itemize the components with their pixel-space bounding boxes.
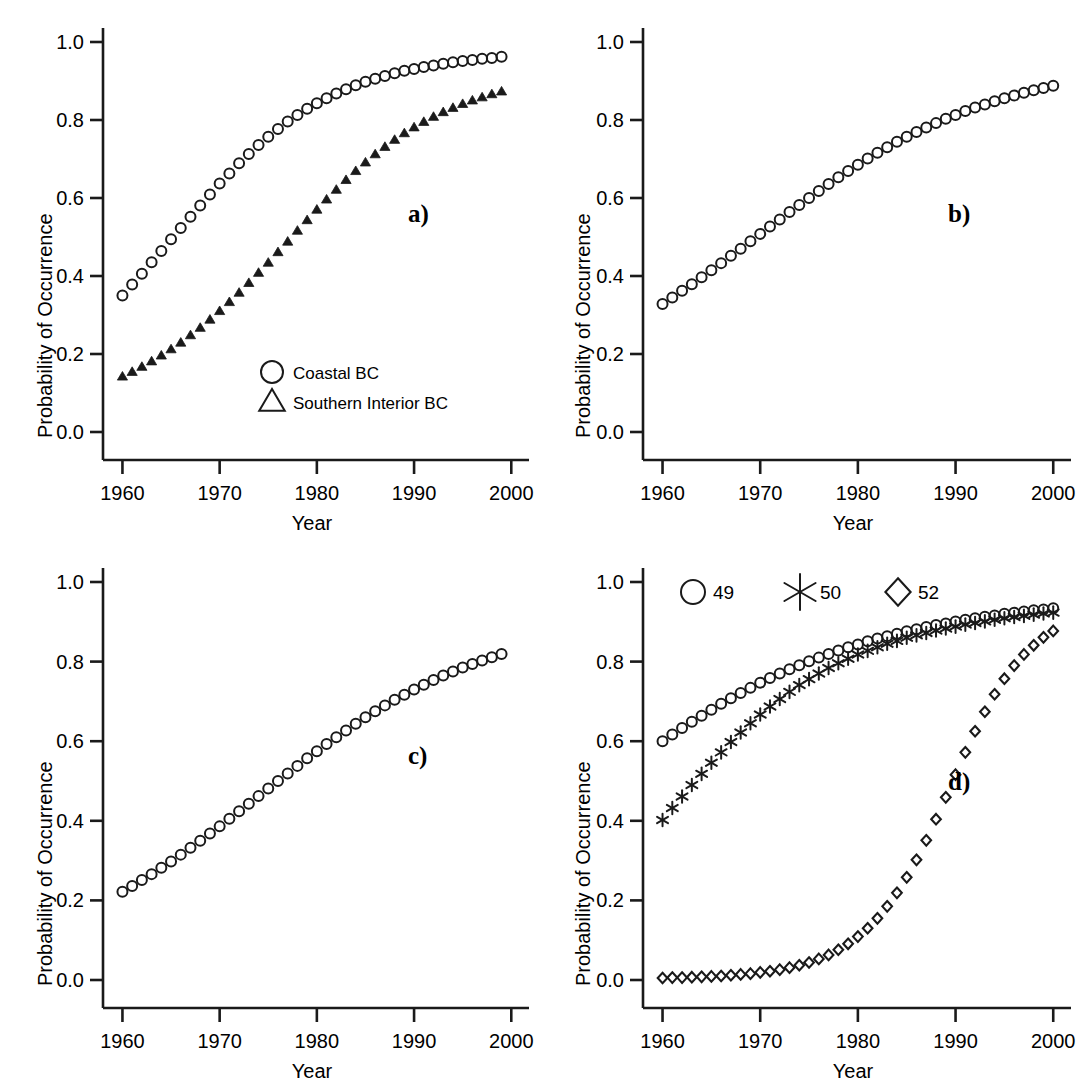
data-point-marker	[999, 93, 1009, 103]
data-point-marker	[707, 971, 717, 982]
data-point-marker	[658, 299, 668, 309]
x-tick-label: 1980	[295, 482, 340, 504]
data-point-marker	[283, 768, 293, 778]
data-point-marker	[746, 968, 756, 979]
data-point-marker	[409, 64, 419, 74]
data-point-marker	[814, 954, 824, 965]
data-point-marker	[360, 77, 370, 87]
data-point-marker	[687, 279, 697, 289]
data-point-marker	[458, 663, 468, 673]
data-point-marker	[399, 690, 409, 700]
y-axis-ticks: 0.00.20.40.60.81.0	[596, 31, 643, 443]
x-tick-label: 1970	[738, 1030, 783, 1052]
data-point-marker	[224, 297, 234, 306]
data-point-marker	[970, 726, 980, 737]
y-axis-ticks: 0.00.20.40.60.81.0	[596, 571, 643, 991]
x-tick-label: 1980	[295, 1030, 340, 1052]
data-point-marker	[1000, 673, 1010, 684]
legend-circle-open-icon	[681, 580, 705, 604]
x-tick-label: 1980	[836, 1030, 881, 1052]
y-tick-label: 0.6	[596, 187, 624, 209]
data-point-marker	[234, 288, 244, 297]
data-point-marker	[254, 791, 264, 801]
x-tick-label: 1960	[640, 482, 685, 504]
y-tick-label: 1.0	[596, 31, 624, 53]
data-point-marker	[380, 71, 390, 81]
data-point-marker	[990, 689, 1000, 700]
data-point-marker	[1048, 81, 1058, 91]
data-series	[658, 603, 1059, 746]
x-tick-label: 1990	[392, 482, 437, 504]
data-point-marker	[755, 678, 765, 688]
x-tick-label: 2000	[489, 482, 534, 504]
data-point-marker	[244, 799, 254, 809]
data-point-marker	[195, 200, 205, 210]
data-series	[658, 81, 1059, 309]
data-point-marker	[824, 649, 834, 659]
plot-canvas: 0.00.20.40.60.81.019601970198019902000Co…	[0, 0, 538, 520]
y-tick-label: 0.2	[56, 343, 84, 365]
data-point-marker	[726, 251, 736, 261]
data-point-marker	[419, 680, 429, 690]
plot-canvas: 0.00.20.40.60.81.01960197019801990200049…	[538, 520, 1076, 1070]
y-tick-label: 0.4	[596, 810, 624, 832]
y-axis-ticks: 0.00.20.40.60.81.0	[56, 571, 103, 991]
data-point-marker	[409, 122, 419, 131]
y-axis-label: Probability of Occurrence	[34, 761, 57, 986]
data-point-marker	[477, 655, 487, 665]
data-point-marker	[409, 684, 419, 694]
data-point-marker	[1019, 649, 1029, 660]
data-point-marker	[263, 784, 273, 794]
data-point-marker	[477, 92, 487, 101]
data-point-marker	[390, 135, 400, 144]
data-point-marker	[1048, 626, 1058, 637]
data-point-marker	[341, 84, 351, 94]
data-point-marker	[745, 683, 755, 693]
data-point-marker	[970, 103, 980, 113]
data-point-marker	[1009, 660, 1019, 671]
legend-label-52: 52	[918, 582, 939, 603]
data-point-marker	[686, 779, 697, 792]
data-point-marker	[980, 99, 990, 109]
y-tick-label: 0.6	[596, 730, 624, 752]
data-point-marker	[331, 88, 341, 98]
data-point-marker	[360, 157, 370, 166]
panel-d-plot: 0.00.20.40.60.81.01960197019801990200049…	[538, 520, 1076, 1070]
data-point-marker	[1039, 632, 1049, 643]
data-point-marker	[273, 247, 283, 256]
data-point-marker	[283, 117, 293, 127]
data-point-marker	[980, 706, 990, 717]
data-point-marker	[677, 723, 687, 733]
data-point-marker	[697, 972, 707, 983]
data-point-marker	[833, 645, 843, 655]
y-tick-label: 1.0	[596, 571, 624, 593]
panel-tag-b: b)	[948, 200, 970, 228]
data-point-marker	[467, 55, 477, 65]
data-point-marker	[351, 80, 361, 90]
data-point-marker	[872, 148, 882, 158]
data-point-marker	[755, 229, 765, 239]
data-series	[117, 52, 506, 301]
panel-a: 0.00.20.40.60.81.019601970198019902000Co…	[0, 0, 538, 520]
legend: 495052	[681, 574, 939, 610]
data-point-marker	[843, 938, 853, 949]
data-point-marker	[429, 675, 439, 685]
data-point-marker	[863, 923, 873, 934]
data-point-marker	[331, 185, 341, 194]
data-point-marker	[667, 729, 677, 739]
data-point-marker	[833, 172, 843, 182]
x-tick-label: 1960	[640, 1030, 685, 1052]
data-point-marker	[677, 790, 688, 803]
data-point-marker	[716, 258, 726, 268]
data-point-marker	[687, 972, 697, 983]
data-point-marker	[292, 761, 302, 771]
data-point-marker	[697, 272, 707, 282]
legend-star-icon	[784, 574, 815, 610]
legend-label-coastal-bc: Coastal BC	[293, 364, 379, 383]
data-point-marker	[775, 964, 785, 975]
data-point-marker	[1038, 83, 1048, 93]
data-point-marker	[127, 280, 137, 290]
data-point-marker	[726, 970, 736, 981]
data-point-marker	[775, 214, 785, 224]
panel-c: 0.00.20.40.60.81.019601970198019902000Pr…	[0, 520, 538, 1070]
